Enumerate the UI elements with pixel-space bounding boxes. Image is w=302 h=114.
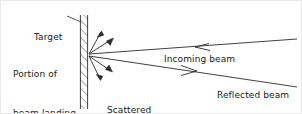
label-portion-line-1: Portion of: [13, 68, 76, 81]
beam-scattering-diagram: Target Portion of beam landing Scattered…: [0, 0, 302, 114]
label-portion-line-2: beam landing: [13, 107, 76, 114]
label-reflected-text: Reflected beam: [217, 89, 289, 102]
label-scattered-line-1: Scattered: [107, 104, 151, 114]
scattered-arrow-lower-steep: [89, 56, 103, 81]
scattered-arrow-upper-steep: [89, 31, 104, 54]
target-leader-line: [67, 16, 81, 22]
label-scattered-portion: Scattered portion: [107, 78, 151, 114]
label-reflected-beam: Reflected beam: [217, 63, 289, 114]
scattered-arrows: [89, 31, 114, 81]
target-wall: [80, 15, 88, 109]
target-wall-hatch-fill: [80, 15, 88, 109]
arrowhead-icon: [105, 65, 112, 72]
arrowhead-icon: [106, 38, 113, 46]
arrowhead-icon: [96, 74, 103, 80]
scattered-arrow-upper-shallow: [89, 38, 114, 54]
label-portion-of-beam-landing: Portion of beam landing: [13, 42, 76, 114]
